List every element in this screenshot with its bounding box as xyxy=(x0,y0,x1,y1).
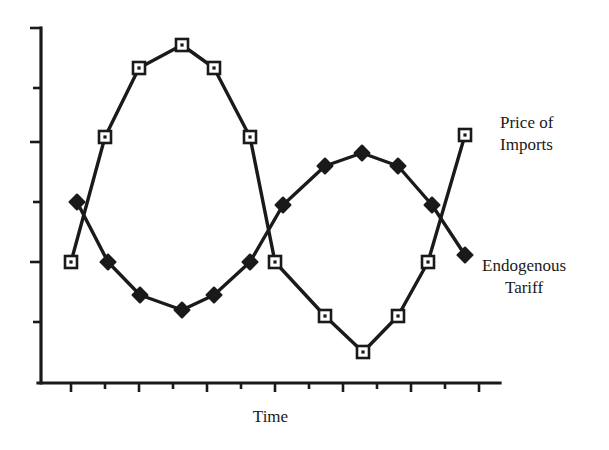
marker-open-square xyxy=(99,131,111,143)
marker-filled-diamond xyxy=(70,195,85,210)
marker-open-square xyxy=(392,310,404,322)
marker-square-center-dot xyxy=(103,135,106,138)
marker-open-square xyxy=(133,62,145,74)
marker-open-square xyxy=(319,310,331,322)
x-axis-label: Time xyxy=(0,407,541,427)
marker-square-center-dot xyxy=(426,260,429,263)
series-markers-group xyxy=(65,39,472,358)
marker-square-center-dot xyxy=(361,350,364,353)
marker-open-square xyxy=(459,129,471,141)
marker-square-center-dot xyxy=(248,135,251,138)
chart-figure: Price of Imports Endogenous Tariff Time xyxy=(0,0,609,450)
marker-filled-diamond xyxy=(175,303,190,318)
marker-open-square xyxy=(244,131,256,143)
chart-plot-area xyxy=(0,0,609,450)
marker-square-center-dot xyxy=(69,260,72,263)
marker-filled-diamond xyxy=(355,146,370,161)
marker-square-center-dot xyxy=(396,314,399,317)
marker-open-square xyxy=(176,39,188,51)
series-line-price-of-imports xyxy=(71,45,465,352)
marker-open-square xyxy=(269,256,281,268)
marker-square-center-dot xyxy=(273,260,276,263)
marker-square-center-dot xyxy=(180,43,183,46)
marker-square-center-dot xyxy=(212,66,215,69)
series-lines-group xyxy=(71,45,465,352)
marker-open-square xyxy=(65,256,77,268)
series-label-price-of-imports: Price of Imports xyxy=(500,112,553,156)
series-line-endogenous-tariff xyxy=(77,153,465,310)
marker-square-center-dot xyxy=(323,314,326,317)
marker-open-square xyxy=(422,256,434,268)
marker-open-square xyxy=(357,346,369,358)
marker-open-square xyxy=(208,62,220,74)
series-label-endogenous-tariff: Endogenous Tariff xyxy=(482,255,566,299)
marker-square-center-dot xyxy=(137,66,140,69)
marker-square-center-dot xyxy=(463,133,466,136)
